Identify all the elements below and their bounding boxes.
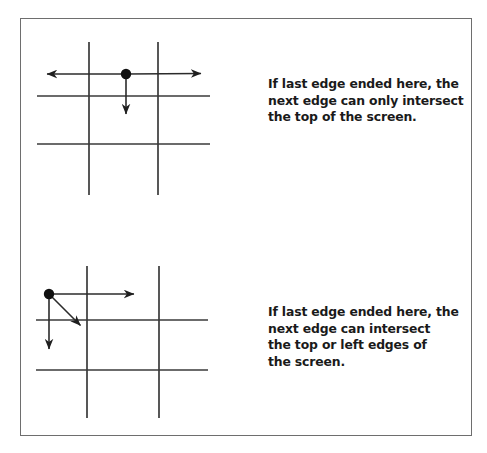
figure-container: If last edge ended here, the next edge c…: [0, 0, 487, 453]
caption-top-diagram: If last edge ended here, the next edge c…: [268, 76, 468, 126]
caption-bottom-diagram: If last edge ended here, the next edge c…: [268, 304, 468, 370]
